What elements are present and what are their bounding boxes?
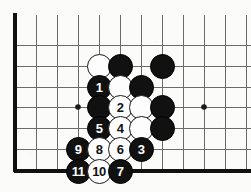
- stone-black: [150, 116, 175, 141]
- stone-move-number: 4: [117, 121, 124, 134]
- stone-move-number: 1: [96, 80, 103, 93]
- star-point: [201, 104, 207, 110]
- stone-move-number: 3: [138, 142, 145, 155]
- stone-move-number: 7: [117, 164, 124, 177]
- stone-move-number: 2: [117, 100, 124, 113]
- stone-move-number: 11: [72, 164, 85, 177]
- stone-move-number: 8: [96, 142, 103, 155]
- stone-move-number: 9: [75, 142, 82, 155]
- stone-black-move-3: 3: [129, 137, 154, 162]
- star-point: [75, 104, 81, 110]
- stone-move-number: 10: [92, 164, 105, 177]
- stone-move-number: 5: [96, 121, 103, 134]
- go-diagram: 1254986311107: [0, 0, 251, 192]
- stone-black: [150, 54, 175, 79]
- stone-move-number: 6: [117, 142, 124, 155]
- stone-black-move-7: 7: [108, 159, 133, 184]
